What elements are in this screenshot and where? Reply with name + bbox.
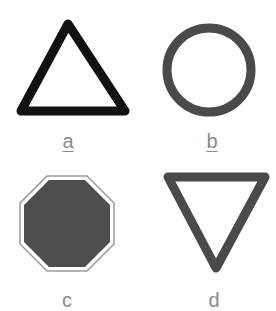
octagon-shape-c <box>24 180 110 267</box>
triangle-up-shape-a <box>21 24 125 111</box>
label-c: c <box>62 290 72 310</box>
triangle-down-shape-d <box>168 177 265 268</box>
circle-shape-b <box>167 28 251 112</box>
label-d: d <box>208 290 219 310</box>
label-a: a <box>62 131 73 151</box>
label-b: b <box>206 131 217 151</box>
